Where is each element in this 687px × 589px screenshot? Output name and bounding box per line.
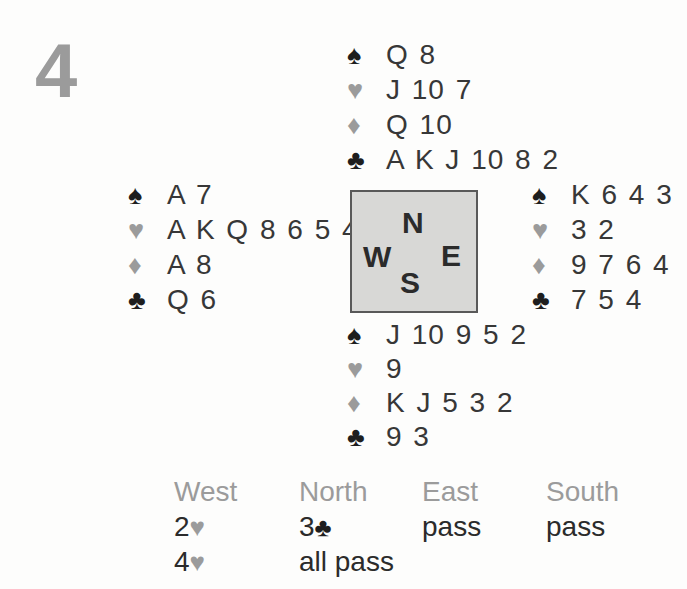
auction-header-south: South — [546, 474, 619, 509]
heart-icon: ♥ — [190, 512, 205, 542]
east-clubs-row: ♣ 7 5 4 — [532, 282, 673, 317]
south-diamonds-cards: K J 5 3 2 — [386, 386, 514, 420]
east-diamonds-row: ♦ 9 7 6 4 — [532, 247, 673, 282]
north-hearts-cards: J 10 7 — [386, 72, 472, 107]
east-spades-cards: K 6 4 3 — [571, 177, 673, 212]
north-clubs-row: ♣ A K J 10 8 2 — [347, 142, 559, 177]
south-diamonds-row: ♦ K J 5 3 2 — [347, 386, 527, 420]
bid-rank: pass — [422, 511, 481, 542]
east-diamonds-cards: 9 7 6 4 — [571, 247, 670, 282]
diamond-icon: ♦ — [128, 248, 154, 283]
bid-south-round1: pass — [546, 509, 619, 544]
spade-icon: ♠ — [128, 178, 154, 213]
hand-east: ♠ K 6 4 3 ♥ 3 2 ♦ 9 7 6 4 ♣ 7 5 4 — [532, 177, 673, 317]
south-spades-cards: J 10 9 5 2 — [386, 318, 527, 352]
compass-north-label: N — [402, 208, 424, 238]
west-hearts-cards: A K Q 8 6 5 4 — [167, 212, 359, 247]
bid-west-round2: 4♥ — [174, 544, 237, 579]
spade-icon: ♠ — [532, 178, 558, 213]
bid-rank: 2 — [174, 511, 190, 542]
east-hearts-cards: 3 2 — [571, 212, 615, 247]
compass-south-label: S — [400, 268, 420, 298]
heart-icon: ♥ — [532, 213, 558, 248]
south-hearts-row: ♥ 9 — [347, 352, 527, 386]
bridge-deal-diagram: 4 ♠ Q 8 ♥ J 10 7 ♦ Q 10 ♣ A K J 10 8 2 ♠… — [0, 0, 687, 589]
west-spades-cards: A 7 — [167, 177, 212, 212]
club-icon: ♣ — [532, 283, 558, 318]
bid-west-round1: 2♥ — [174, 509, 237, 544]
east-hearts-row: ♥ 3 2 — [532, 212, 673, 247]
east-clubs-cards: 7 5 4 — [571, 282, 642, 317]
south-clubs-cards: 9 3 — [386, 420, 430, 454]
auction-column-west: West 2♥ 4♥ — [174, 474, 237, 579]
heart-icon: ♥ — [128, 213, 154, 248]
west-hearts-row: ♥ A K Q 8 6 5 4 — [128, 212, 359, 247]
club-icon: ♣ — [315, 512, 332, 542]
diamond-icon: ♦ — [532, 248, 558, 283]
auction-header-east: East — [422, 474, 481, 509]
spade-icon: ♠ — [347, 38, 373, 73]
deal-number: 4 — [35, 33, 74, 109]
west-spades-row: ♠ A 7 — [128, 177, 359, 212]
bid-east-round1: pass — [422, 509, 481, 544]
heart-icon: ♥ — [190, 547, 205, 577]
compass-east-label: E — [441, 241, 461, 271]
auction-column-east: East pass — [422, 474, 481, 544]
south-spades-row: ♠ J 10 9 5 2 — [347, 318, 527, 352]
north-spades-row: ♠ Q 8 — [347, 37, 559, 72]
hand-south: ♠ J 10 9 5 2 ♥ 9 ♦ K J 5 3 2 ♣ 9 3 — [347, 318, 527, 454]
auction-header-north: North — [299, 474, 394, 509]
north-diamonds-row: ♦ Q 10 — [347, 107, 559, 142]
bid-north-round2: all pass — [299, 544, 394, 579]
bid-rank: 3 — [299, 511, 315, 542]
club-icon: ♣ — [347, 420, 373, 454]
spade-icon: ♠ — [347, 318, 373, 352]
south-clubs-row: ♣ 9 3 — [347, 420, 527, 454]
west-clubs-cards: Q 6 — [167, 282, 217, 317]
north-spades-cards: Q 8 — [386, 37, 436, 72]
bid-rank: pass — [546, 511, 605, 542]
north-hearts-row: ♥ J 10 7 — [347, 72, 559, 107]
north-clubs-cards: A K J 10 8 2 — [386, 142, 559, 177]
hand-west: ♠ A 7 ♥ A K Q 8 6 5 4 ♦ A 8 ♣ Q 6 — [128, 177, 359, 317]
heart-icon: ♥ — [347, 73, 373, 108]
club-icon: ♣ — [347, 143, 373, 178]
south-hearts-cards: 9 — [386, 352, 403, 386]
compass-box: N W E S — [350, 190, 478, 313]
heart-icon: ♥ — [347, 352, 373, 386]
bid-north-round1: 3♣ — [299, 509, 394, 544]
diamond-icon: ♦ — [347, 108, 373, 143]
auction-header-west: West — [174, 474, 237, 509]
hand-north: ♠ Q 8 ♥ J 10 7 ♦ Q 10 ♣ A K J 10 8 2 — [347, 37, 559, 177]
west-diamonds-row: ♦ A 8 — [128, 247, 359, 282]
auction-column-south: South pass — [546, 474, 619, 544]
club-icon: ♣ — [128, 283, 154, 318]
auction-column-north: North 3♣ all pass — [299, 474, 394, 579]
bid-rank: all pass — [299, 546, 394, 577]
diamond-icon: ♦ — [347, 386, 373, 420]
north-diamonds-cards: Q 10 — [386, 107, 453, 142]
west-clubs-row: ♣ Q 6 — [128, 282, 359, 317]
bid-rank: 4 — [174, 546, 190, 577]
east-spades-row: ♠ K 6 4 3 — [532, 177, 673, 212]
auction-table: West 2♥ 4♥ North 3♣ all pass East pass — [0, 474, 687, 589]
west-diamonds-cards: A 8 — [167, 247, 212, 282]
compass-west-label: W — [363, 242, 391, 272]
